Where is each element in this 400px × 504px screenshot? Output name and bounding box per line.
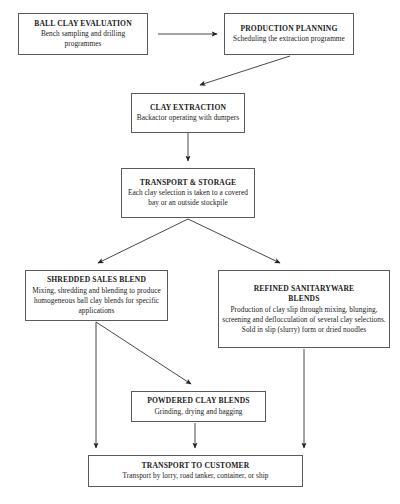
node-description: Production of clay slip through mixing, … — [222, 305, 386, 325]
node-title: TRANSPORT TO CUSTOMER — [142, 461, 250, 472]
node-description: Bench sampling and drilling programmes — [22, 29, 144, 49]
node-refined-sanitaryware-blends[interactable]: REFINED SANITARYWARE BLENDS Production o… — [218, 270, 390, 348]
node-production-planning[interactable]: PRODUCTION PLANNING Scheduling the extra… — [224, 13, 354, 55]
connector-storage-to-refined — [188, 219, 280, 263]
node-description: Scheduling the extraction programme — [233, 34, 345, 44]
node-title: TRANSPORT & STORAGE — [140, 178, 236, 189]
node-title: REFINED SANITARYWARE BLENDS — [254, 284, 355, 305]
connector-planning-to-extraction — [200, 56, 290, 85]
node-title: CLAY EXTRACTION — [150, 103, 226, 114]
node-description-secondary: Sold in slip (slurry) form or dried nood… — [242, 325, 366, 335]
node-title: SHREDDED SALES BLEND — [47, 275, 146, 286]
node-description: Grinding, drying and bagging — [154, 407, 242, 417]
node-description: Each clay selection is taken to a covere… — [125, 188, 251, 208]
node-title: POWDERED CLAY BLENDS — [147, 396, 249, 407]
node-transport-and-storage[interactable]: TRANSPORT & STORAGE Each clay selection … — [121, 168, 255, 218]
connector-shredded-to-powdered — [96, 322, 191, 384]
node-transport-to-customer[interactable]: TRANSPORT TO CUSTOMER Transport by lorry… — [88, 455, 303, 487]
node-description: Backactor operating with dumpers — [137, 113, 239, 123]
node-title: PRODUCTION PLANNING — [240, 24, 337, 35]
node-title: BALL CLAY EVALUATION — [34, 19, 132, 30]
node-clay-extraction[interactable]: CLAY EXTRACTION Backactor operating with… — [131, 93, 245, 133]
node-ball-clay-evaluation[interactable]: BALL CLAY EVALUATION Bench sampling and … — [18, 13, 148, 55]
flowchart-canvas: BALL CLAY EVALUATION Bench sampling and … — [0, 0, 400, 504]
node-shredded-sales-blend[interactable]: SHREDDED SALES BLEND Mixing, shredding a… — [25, 270, 168, 321]
flowchart-connectors — [0, 0, 400, 504]
node-description: Transport by lorry, road tanker, contain… — [123, 471, 269, 481]
node-description: Mixing, shredding and blending to produc… — [29, 286, 164, 316]
connector-storage-to-shredded — [98, 219, 188, 263]
node-powdered-clay-blends[interactable]: POWDERED CLAY BLENDS Grinding, drying an… — [131, 391, 266, 422]
